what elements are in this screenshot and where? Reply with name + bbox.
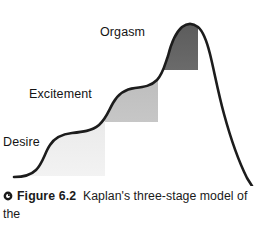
- caption-figure-number: Figure 6.2: [17, 189, 76, 203]
- figure-container: Desire Excitement Orgasm Figure 6.2 Kapl…: [0, 0, 255, 226]
- stage-label-excitement: Excitement: [29, 88, 92, 101]
- curve-fill-group: [14, 24, 252, 186]
- stage-label-orgasm: Orgasm: [100, 26, 145, 39]
- stage-label-desire: Desire: [3, 136, 40, 149]
- figure-caption: Figure 6.2 Kaplan's three-stage model of…: [0, 188, 255, 222]
- filled-ring-bullet-icon: [3, 189, 13, 206]
- chart-plot-area: Desire Excitement Orgasm: [0, 0, 255, 186]
